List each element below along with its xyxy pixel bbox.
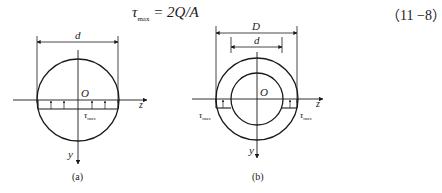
dimension-label-d: d — [75, 29, 81, 41]
y-axis-label: y — [67, 148, 73, 160]
tau-max-label: τmax — [84, 110, 96, 121]
tau-max-label-right: τmax — [300, 110, 312, 121]
caption-b: (b) — [252, 171, 264, 183]
origin-label: O — [260, 86, 268, 98]
origin-label: O — [81, 87, 89, 99]
z-axis-label: z — [138, 99, 143, 110]
dimension-label-D: D — [251, 20, 260, 32]
dimension-label-d-inner: d — [254, 34, 260, 46]
y-axis-label: y — [248, 144, 254, 156]
z-axis-label: z — [315, 98, 320, 109]
tau-max-label-left: τmax — [199, 110, 211, 121]
caption-a: (a) — [72, 171, 83, 183]
figure-a-solid-section — [13, 36, 147, 164]
figures-canvas: d O z y τmax (a) D d O z y τmax τmax (b) — [0, 0, 442, 193]
